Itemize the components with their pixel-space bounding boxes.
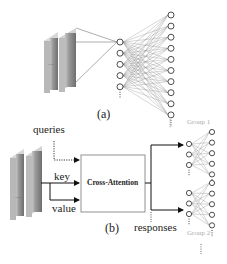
caption-b: (b) [105, 222, 119, 234]
feature-map-stack-b: ··· [10, 146, 42, 220]
queries-label: queries [33, 124, 65, 135]
panel-a-output-node [168, 112, 174, 118]
svg-text:···: ··· [15, 194, 21, 200]
key-label: key [54, 171, 70, 182]
group-1-output-node [209, 140, 214, 145]
group-2-input-node [186, 190, 191, 195]
group-2-output-node [209, 212, 214, 217]
group-2-output-node [209, 223, 214, 228]
group-1-input-node [186, 141, 191, 146]
group-1-output-node [209, 151, 214, 156]
cross-attention-label: Cross-Attention [87, 179, 138, 187]
group-2-label: Group 2 [187, 230, 210, 237]
dense-connections-a [123, 15, 168, 115]
caption-a: (a) [97, 108, 110, 120]
value-arrow [50, 183, 79, 200]
responses-arrow-group-2 [151, 183, 183, 210]
panel-a-output-node [168, 79, 174, 85]
group-2-input-node [186, 211, 191, 216]
responses-arrow-group-1 [145, 145, 183, 183]
group-connections [192, 132, 210, 225]
group-1-input-node [186, 152, 191, 157]
panel-a-input-node [117, 61, 123, 67]
panel-a-output-node [168, 68, 174, 74]
value-label: value [52, 203, 76, 214]
panel-a-output-node [168, 101, 174, 107]
responses-label: responses [134, 222, 177, 233]
svg-text:···: ··· [48, 61, 54, 67]
panel-a-input-node [117, 50, 123, 56]
panel-a-input-node [117, 39, 123, 45]
group-1-output-node [209, 161, 214, 166]
panel-a-output-node [168, 90, 174, 96]
group-2-input-node [186, 201, 191, 206]
group-1-label: Group 1 [187, 119, 210, 126]
group-1-output-node [209, 172, 214, 177]
feature-map-stack-a: ··· [44, 28, 76, 93]
group-2-output-node [209, 202, 214, 207]
panel-a-output-node [168, 56, 174, 62]
projection-lines [76, 28, 117, 82]
group-2-output-node [209, 180, 214, 185]
panel-a-output-node [168, 23, 174, 29]
queries-arrow [54, 141, 79, 160]
panel-a-output-node [168, 34, 174, 40]
group-1-input-node [186, 162, 191, 167]
panel-a-input-node [117, 84, 123, 90]
group-layers [186, 129, 214, 237]
group-2-output-node [209, 191, 214, 196]
panel-a-output-node [168, 12, 174, 18]
panel-a-input-node [117, 73, 123, 79]
group-1-output-node [209, 129, 214, 134]
panel-a-output-node [168, 45, 174, 51]
